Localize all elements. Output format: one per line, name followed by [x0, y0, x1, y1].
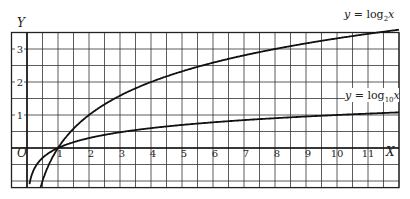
y-axis-label: Y	[17, 16, 26, 30]
x-tick-label: 7	[243, 148, 249, 159]
x-axis-label: X	[385, 145, 395, 159]
x-tick-label: 4	[150, 148, 156, 159]
x-tick-label: 5	[181, 148, 187, 159]
x-tick-label: 1	[57, 148, 63, 159]
y-tick-label: 2	[17, 77, 23, 88]
y-tick-label: 3	[17, 44, 23, 55]
svg-text:y = log2x: y = log2x	[343, 8, 395, 23]
x-tick-label: 3	[119, 148, 125, 159]
log10-annotation: y = log10x	[344, 88, 401, 104]
log2-annotation: y = log2x	[343, 7, 398, 23]
x-tick-label: 9	[305, 148, 311, 159]
curves	[30, 30, 400, 187]
log2-curve	[41, 30, 399, 187]
x-tick-label: 6	[212, 148, 218, 159]
grid	[12, 33, 400, 188]
x-tick-label: 2	[88, 148, 94, 159]
x-tick-label: 8	[274, 148, 280, 159]
x-tick-label: 11	[362, 148, 375, 159]
tick-labels: 1234567891011123	[15, 43, 374, 159]
log-chart: 1234567891011123 Y X O y = log2x y = log…	[0, 0, 410, 199]
y-tick-label: 1	[17, 110, 23, 121]
x-tick-label: 10	[331, 148, 344, 159]
origin-label: O	[17, 146, 27, 160]
